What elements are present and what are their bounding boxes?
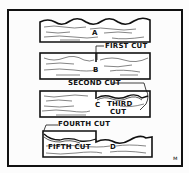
- third-cut-label-line2: CUT: [110, 109, 126, 116]
- second-cut-label: SECOND CUT: [68, 80, 121, 87]
- fifth-cut-label: FIFTH CUT: [48, 144, 91, 151]
- board-c-label: C: [95, 102, 100, 109]
- fourth-cut-label: FOURTH CUT: [58, 121, 110, 128]
- first-cut-label: FIRST CUT: [105, 43, 147, 50]
- board-b-shape: [40, 46, 150, 79]
- diagram-canvas: A FIRST CUT B SECOND CUT C THIRD CUT FOU…: [0, 0, 189, 173]
- board-d-label: D: [110, 144, 116, 151]
- board-b-label: B: [93, 67, 99, 74]
- third-cut-label: THIRD: [107, 101, 132, 108]
- board-a-label: A: [92, 30, 98, 37]
- signature-mark: ᴍ: [173, 155, 178, 161]
